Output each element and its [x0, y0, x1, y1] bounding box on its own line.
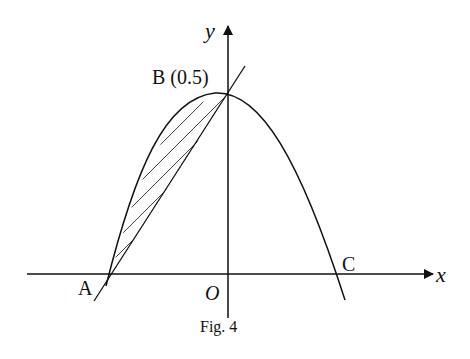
point-b-label: B (0.5)	[152, 66, 209, 89]
x-axis-label: x	[435, 262, 446, 287]
line-ab	[94, 66, 245, 301]
figure-caption: Fig. 4	[200, 318, 237, 336]
figure-4: y x O B (0.5) A C Fig. 4	[0, 0, 470, 359]
diagram-canvas: y x O B (0.5) A C Fig. 4	[0, 0, 470, 359]
parabola-curve	[106, 93, 345, 300]
origin-label: O	[205, 282, 219, 304]
point-c-label: C	[342, 253, 355, 275]
point-a-label: A	[78, 277, 93, 299]
y-axis-label: y	[203, 18, 215, 43]
